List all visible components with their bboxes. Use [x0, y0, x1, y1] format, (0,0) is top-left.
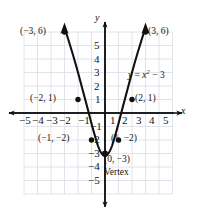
xtick-neg3: −3	[46, 115, 58, 126]
xtick-2: 2	[122, 115, 128, 126]
point-label-neg3-6: (−3, 6)	[20, 27, 46, 37]
ytick-3: 3	[94, 67, 100, 78]
point-label-1-neg2: (1, −2)	[111, 134, 137, 144]
ytick-2: 2	[94, 81, 100, 92]
point-neg2-1	[75, 97, 80, 102]
equation-equals: =	[132, 70, 142, 80]
ytick-neg5: −5	[88, 175, 100, 186]
point-label-2-1: (2, 1)	[135, 94, 156, 104]
xtick-4: 4	[149, 115, 155, 126]
xtick-3: 3	[136, 115, 142, 126]
ytick-neg4: −4	[88, 161, 100, 172]
xtick-neg5: −5	[19, 115, 31, 126]
point-label-vertex-coords: (0, −3)	[104, 155, 130, 165]
equation-label: y = x2 − 3	[128, 69, 165, 81]
ytick-neg1: −1	[90, 121, 102, 132]
xtick-5: 5	[163, 115, 169, 126]
ytick-neg2: −2	[88, 134, 100, 145]
xtick-neg1: −1	[78, 115, 90, 126]
ytick-5: 5	[94, 40, 100, 51]
xtick-neg4: −4	[32, 115, 44, 126]
ytick-1: 1	[95, 94, 101, 105]
vertex-label: Vertex	[104, 168, 129, 178]
x-axis-label: x	[181, 106, 185, 116]
point-label-neg2-1: (−2, 1)	[30, 94, 56, 104]
xtick-1: 1	[110, 115, 116, 126]
point-2-1	[129, 97, 134, 102]
point-neg3-6	[62, 29, 67, 34]
point-label-neg1-neg2: (−1, −2)	[38, 134, 69, 144]
point-label-3-6: (3, 6)	[148, 27, 169, 37]
y-axis-label: y	[95, 13, 99, 23]
ytick-neg3: −3	[88, 148, 100, 159]
ytick-4: 4	[94, 54, 100, 65]
graph-figure: x y −5 −4 −3 −2 −1 1 2 3 4 5 5 4 3 2 1 −…	[0, 0, 199, 213]
equation-constant: − 3	[152, 70, 164, 80]
xtick-neg2: −2	[59, 115, 71, 126]
